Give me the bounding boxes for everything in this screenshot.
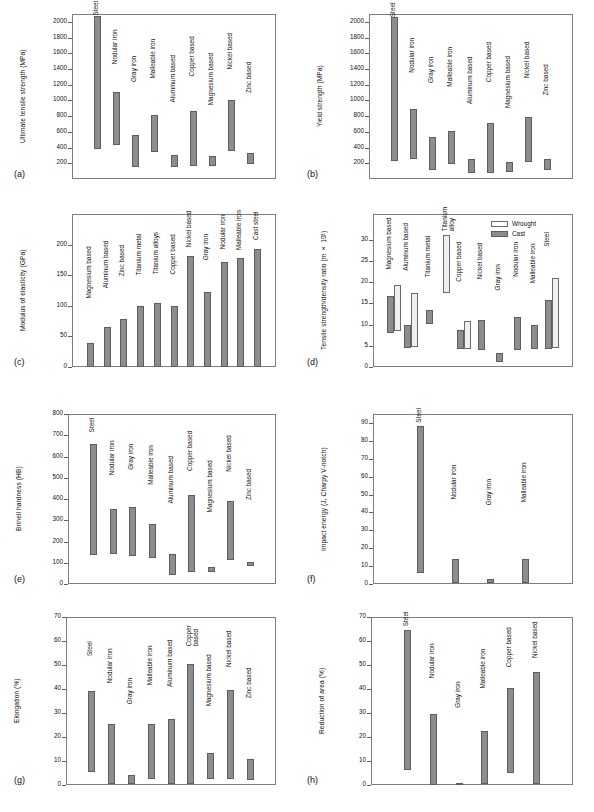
y-axis-label-c: Modulus of elasticity (GPa): [20, 214, 27, 367]
y-tick-label-e: 600: [32, 453, 63, 459]
y-tick-label-b: 800: [333, 112, 364, 118]
bar-label-f-3: Malleable iron: [521, 408, 528, 557]
bar-label-b-5: Copper based: [486, 4, 493, 121]
y-tick-label-g: 20: [30, 733, 61, 739]
bar-g-1: [108, 724, 115, 784]
bar-label-b-6: Magnesium based: [505, 4, 512, 160]
bar-f-2: [487, 579, 494, 583]
y-tick-label-g: 10: [30, 757, 61, 763]
y-tick-b: [365, 38, 369, 39]
y-tick-label-e: 100: [32, 559, 63, 565]
legend-swatch-wrought: [491, 221, 508, 227]
y-tick-label-h: 20: [335, 733, 366, 739]
panel-a: (a)Ultimate tensile strength (MPa)200400…: [0, 0, 297, 203]
y-tick-label-d: 30: [337, 236, 368, 242]
bar-d-6: [496, 353, 503, 362]
y-tick-d: [369, 367, 373, 368]
y-tick-g: [62, 617, 66, 618]
bar-d-7: [514, 317, 521, 350]
bar-g-2: [128, 775, 135, 784]
bar-b-4: [468, 159, 475, 174]
bar-label-g-8: Zinc based: [246, 609, 253, 757]
bar-b-7: [525, 117, 532, 162]
y-axis-label-f: Impact energy (J, Charpy V-notch): [321, 414, 328, 584]
y-tick-label-f: 60: [337, 473, 368, 479]
bar-b-1: [410, 109, 417, 160]
bar-label-a-3: Malleable iron: [150, 4, 157, 113]
bar-d-3: [443, 235, 450, 292]
bar-label-f-1: Nodular iron: [451, 408, 458, 557]
y-tick-label-g: 60: [30, 637, 61, 643]
bar-h-5: [533, 672, 540, 784]
panel-b: (b)Yield strength (MPa)20040060080010001…: [297, 0, 594, 203]
bar-label-d-3: Titanium alloy: [442, 204, 455, 233]
legend-label-wrought: Wrought: [512, 220, 536, 227]
panel-letter-h: (h): [307, 775, 318, 785]
y-tick-label-d: 20: [337, 278, 368, 284]
y-tick-f: [369, 423, 373, 424]
y-tick-e: [64, 584, 68, 585]
y-tick-g: [62, 665, 66, 666]
y-tick-label-h: 0: [335, 781, 366, 787]
bar-d-9: [552, 278, 559, 349]
y-tick-label-c: 100: [36, 302, 67, 308]
bar-b-8: [544, 159, 551, 170]
y-tick-a: [68, 132, 72, 133]
bar-label-a-4: Aluminum based: [170, 4, 177, 153]
bar-h-4: [507, 688, 514, 773]
bar-e-4: [169, 554, 176, 576]
y-tick-e: [64, 435, 68, 436]
y-tick-d: [369, 303, 373, 304]
y-tick-f: [369, 584, 373, 585]
y-tick-c: [68, 336, 72, 337]
plot-area-f: [373, 414, 573, 584]
bar-e-2: [129, 507, 136, 556]
y-tick-b: [365, 100, 369, 101]
legend-item-wrought: Wrought: [491, 220, 536, 227]
y-tick-a: [68, 100, 72, 101]
y-tick-f: [369, 495, 373, 496]
y-tick-e: [64, 414, 68, 415]
y-tick-d: [369, 325, 373, 326]
y-tick-label-a: 1400: [36, 65, 67, 71]
bar-h-2: [456, 783, 463, 785]
legend-item-cast: Cast: [491, 230, 536, 237]
bar-c-8: [221, 262, 228, 367]
bar-label-a-8: Zinc based: [246, 4, 253, 151]
bar-label-b-7: Nickel based: [524, 4, 531, 115]
bar-c-1: [104, 327, 111, 367]
bar-a-6: [209, 156, 216, 166]
bar-f-1: [452, 559, 459, 584]
y-tick-label-d: 25: [337, 257, 368, 263]
y-tick-d: [369, 240, 373, 241]
y-tick-label-c: 0: [36, 363, 67, 369]
bar-e-8: [247, 562, 254, 566]
bar-label-e-4: Aluminum based: [168, 408, 175, 552]
bar-d-9: [545, 300, 552, 349]
bar-d-0: [387, 296, 394, 333]
y-tick-c: [68, 275, 72, 276]
y-tick-label-a: 400: [36, 144, 67, 150]
panel-letter-d: (d): [307, 357, 318, 367]
bar-label-h-3: Malleable iron: [480, 609, 487, 729]
bar-b-2: [429, 137, 436, 170]
y-tick-f: [369, 477, 373, 478]
bar-label-g-6: Magnesium based: [206, 609, 213, 751]
bar-label-c-6: Nickel based: [186, 204, 193, 254]
y-tick-b: [365, 116, 369, 117]
y-tick-e: [64, 499, 68, 500]
y-tick-b: [365, 69, 369, 70]
bar-label-c-2: Zinc based: [119, 204, 126, 317]
plot-area-h: [371, 617, 573, 785]
y-tick-label-b: 2000: [333, 18, 364, 24]
y-tick-h: [367, 761, 371, 762]
legend-d: WroughtCast: [491, 220, 536, 240]
y-tick-f: [369, 441, 373, 442]
bar-label-a-0: Steel: [93, 4, 100, 14]
bar-b-3: [448, 131, 455, 164]
bar-d-8: [531, 325, 538, 349]
y-tick-f: [369, 512, 373, 513]
y-tick-label-f: 0: [337, 580, 368, 586]
y-tick-label-h: 60: [335, 637, 366, 643]
y-tick-label-a: 1000: [36, 96, 67, 102]
